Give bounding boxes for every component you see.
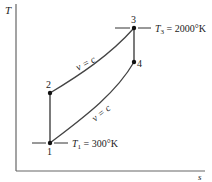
state-point-3 xyxy=(132,26,136,30)
point-label-3: 3 xyxy=(131,14,136,25)
point-label-1: 1 xyxy=(47,146,52,157)
y-axis-label: T xyxy=(5,4,12,16)
lower-curve-label: v = c xyxy=(89,102,112,124)
point-label-4: 4 xyxy=(137,58,142,69)
process-4-1-curve xyxy=(50,62,134,143)
t3-annotation: T3 = 2000°K xyxy=(155,23,207,36)
state-point-4 xyxy=(132,60,136,64)
state-point-2 xyxy=(48,91,52,95)
state-point-1 xyxy=(48,141,52,145)
t-s-diagram: T s 1 2 3 4 v = c v = c T1 = 300°K T3 = … xyxy=(0,0,212,182)
x-axis-label: s xyxy=(198,172,202,182)
t1-annotation: T1 = 300°K xyxy=(72,138,119,151)
point-label-2: 2 xyxy=(46,79,51,90)
